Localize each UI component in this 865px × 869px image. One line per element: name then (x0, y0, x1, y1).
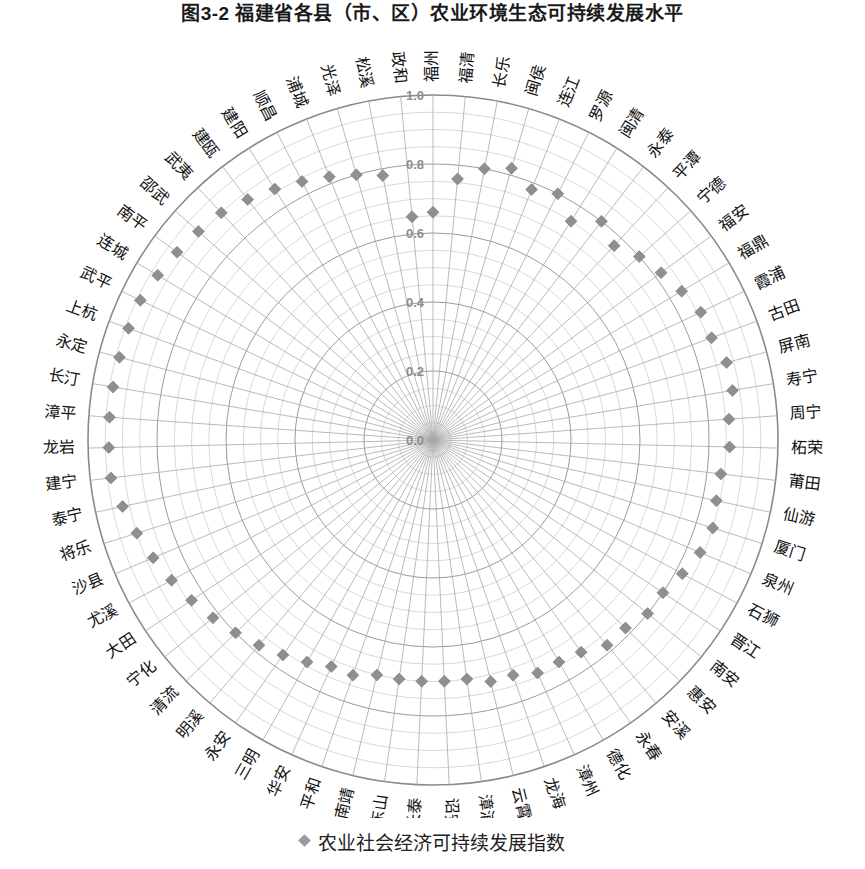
radial-tick-label: 0.6 (406, 226, 424, 241)
category-label: 漳浦 (476, 793, 497, 818)
category-label: 石狮 (745, 601, 781, 631)
category-label: 泰宁 (50, 505, 85, 528)
axis-spoke (96, 440, 433, 512)
data-point-marker (186, 594, 198, 606)
category-label: 福鼎 (735, 231, 771, 262)
axis-spoke (433, 188, 668, 440)
data-point-marker (727, 384, 739, 396)
data-point-marker (131, 527, 143, 539)
data-point-marker (347, 669, 359, 681)
category-label: 晋江 (727, 630, 763, 662)
axis-spoke (263, 440, 433, 740)
category-label: 武夷 (162, 148, 196, 183)
category-label: 惠安 (684, 683, 719, 718)
radial-tick-label: 0.4 (406, 295, 425, 310)
data-point-marker (723, 413, 735, 425)
data-point-marker (655, 267, 667, 279)
axis-spoke (115, 440, 433, 574)
category-label: 周宁 (789, 403, 822, 422)
radial-tick-label: 0.0 (406, 433, 424, 448)
category-label: 光泽 (318, 63, 343, 98)
data-point-marker (134, 294, 146, 306)
data-point-marker (506, 162, 518, 174)
category-label: 明溪 (173, 707, 207, 742)
category-label: 漳州 (573, 763, 602, 799)
category-label: 大田 (103, 630, 139, 662)
category-label: 武平 (78, 263, 114, 292)
category-label: 厦门 (772, 538, 808, 564)
data-point-marker (706, 332, 718, 344)
category-label: 永定 (54, 331, 89, 356)
page-title: 图3-2 福建省各县（市、区）农业环境生态可持续发展水平 (0, 0, 865, 25)
category-label: 德化 (603, 747, 634, 783)
data-point-marker (117, 500, 129, 512)
category-label: 安溪 (659, 707, 693, 742)
axis-spoke (222, 167, 433, 440)
axis-spoke (89, 416, 433, 440)
data-point-marker (552, 188, 564, 200)
category-label: 龙岩 (43, 439, 75, 457)
data-point-marker (507, 669, 519, 681)
category-label: 泉州 (760, 570, 796, 598)
axis-spoke (186, 440, 433, 681)
data-point-marker (478, 163, 490, 175)
radar-chart-svg: 0.00.20.40.60.81.0 福州福清长乐闽侯连江罗源闽清永泰平潭宁德福… (0, 28, 865, 818)
data-point-marker (301, 656, 313, 668)
category-label: 华安 (264, 763, 293, 799)
radial-tick-label: 0.8 (406, 157, 424, 172)
category-label: 宁化 (124, 657, 160, 690)
axis-spoke (433, 119, 559, 440)
category-label: 清流 (147, 683, 182, 718)
category-label: 东山 (369, 793, 390, 818)
data-point-marker (532, 667, 544, 679)
category-label: 永泰 (644, 125, 677, 161)
category-label: 永安 (202, 728, 234, 764)
category-label: 闽侯 (523, 63, 548, 98)
axis-spoke (322, 440, 433, 767)
axis-spoke (433, 97, 465, 440)
data-point-marker (269, 183, 281, 195)
category-label: 长汀 (47, 367, 81, 389)
axis-spoke (137, 263, 433, 440)
axis-spoke (93, 384, 433, 440)
category-label: 南靖 (333, 786, 357, 818)
data-point-marker (416, 675, 428, 687)
category-label: 将乐 (58, 538, 94, 564)
data-point-marker (601, 639, 613, 651)
data-point-marker (147, 552, 159, 564)
data-point-marker (377, 170, 389, 182)
category-label: 长泰 (405, 797, 423, 818)
category-label: 霞浦 (752, 263, 788, 292)
data-point-marker (526, 184, 538, 196)
category-label: 龙海 (542, 776, 568, 812)
legend-diamond-icon (298, 834, 311, 847)
data-point-marker (427, 206, 439, 218)
data-point-marker (371, 669, 383, 681)
data-point-marker (166, 574, 178, 586)
data-point-marker (171, 246, 183, 258)
data-point-marker (393, 673, 405, 685)
category-label: 政和 (389, 51, 409, 84)
axis-spoke (433, 440, 544, 767)
data-point-marker (575, 646, 587, 658)
data-point-marker (296, 175, 308, 187)
data-point-marker (207, 612, 219, 624)
data-point-marker (553, 656, 565, 668)
category-label: 福州 (423, 50, 440, 82)
category-label: 诏安 (443, 797, 461, 818)
data-point-marker (325, 661, 337, 673)
data-point-marker (242, 193, 254, 205)
data-point-marker (113, 351, 125, 363)
data-point-marker (104, 411, 116, 423)
radar-chart: 0.00.20.40.60.81.0 福州福清长乐闽侯连江罗源闽清永泰平潭宁德福… (0, 28, 865, 818)
radial-tick-label: 0.2 (406, 364, 424, 379)
category-label: 建宁 (45, 472, 79, 493)
category-label: 寿宁 (785, 367, 819, 389)
category-label: 连江 (555, 74, 583, 110)
category-label: 浦城 (283, 74, 311, 110)
axis-spoke (433, 167, 644, 440)
category-label: 尤溪 (85, 601, 121, 631)
category-label: 永春 (632, 728, 664, 764)
category-label: 莆田 (788, 472, 822, 493)
data-point-marker (253, 639, 265, 651)
